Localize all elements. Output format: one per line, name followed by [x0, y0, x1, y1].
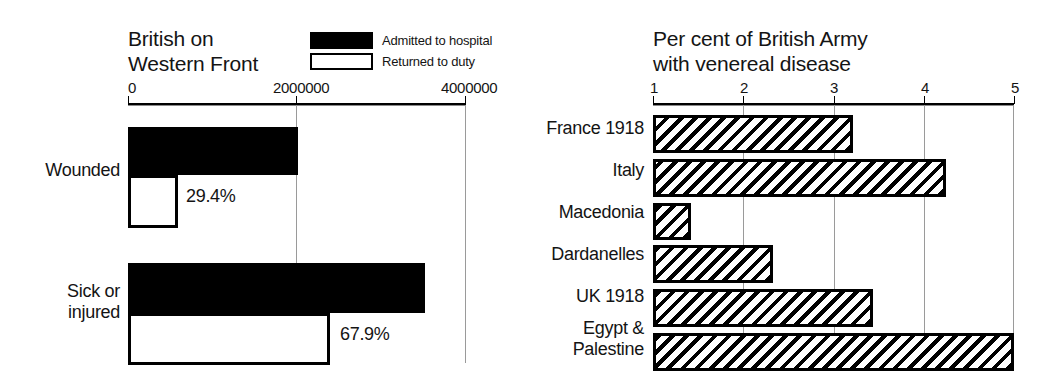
- right-gridline-5: [1013, 105, 1014, 367]
- right-bar-france-1918: [653, 115, 853, 153]
- legend-swatch-hollow-icon: [310, 53, 373, 70]
- left-chart-panel: British on Western Front Admitted to hos…: [0, 0, 520, 387]
- legend-item-admitted: Admitted to hospital: [310, 30, 525, 51]
- left-plot-frame-top: [128, 105, 466, 106]
- legend: Admitted to hospital Returned to duty: [310, 30, 525, 72]
- right-bar-uk-1918: [653, 289, 873, 327]
- figure-root: British on Western Front Admitted to hos…: [0, 0, 1040, 387]
- left-annotation-wounded-pct: 29.4%: [186, 187, 236, 205]
- right-gridline-4: [924, 105, 925, 367]
- right-bar-dardanelles: [653, 245, 773, 283]
- right-axis-tick-3: [834, 96, 835, 104]
- legend-label-admitted: Admitted to hospital: [382, 34, 492, 48]
- left-bar-sick-admitted: [128, 263, 425, 313]
- left-xtick-label-0: 0: [128, 80, 136, 95]
- left-annotation-sick-pct: 67.9%: [340, 325, 390, 343]
- right-axis-tick-1: [653, 96, 654, 104]
- legend-swatch-filled-icon: [310, 32, 373, 49]
- right-bar-egypt-palestine: [653, 333, 1014, 371]
- left-category-label-sick: Sick or injured: [10, 281, 120, 323]
- left-plot-area: [128, 105, 466, 363]
- right-bar-italy: [653, 159, 946, 197]
- left-bar-wounded-admitted: [128, 127, 298, 175]
- legend-label-returned: Returned to duty: [382, 55, 475, 69]
- left-axis-tick-1: [296, 96, 297, 104]
- right-xtick-label-2: 2: [740, 80, 748, 95]
- left-category-label-wounded: Wounded: [10, 160, 120, 181]
- left-axis-tick-2: [465, 96, 466, 104]
- left-axis-tick-0: [128, 96, 129, 104]
- right-chart-title: Per cent of British Army with venereal d…: [653, 26, 868, 76]
- left-chart-title: British on Western Front: [128, 26, 258, 76]
- right-chart-panel: Per cent of British Army with venereal d…: [520, 0, 1040, 387]
- left-bar-sick-returned: [128, 313, 330, 365]
- right-axis-tick-2: [743, 96, 744, 104]
- right-axis-tick-4: [924, 96, 925, 104]
- right-xtick-label-5: 5: [1011, 80, 1019, 95]
- left-xtick-label-1: 2000000: [273, 80, 329, 95]
- right-category-label-dardanelles: Dardanelles: [520, 244, 644, 265]
- right-axis-tick-5: [1014, 96, 1015, 104]
- right-xtick-label-4: 4: [921, 80, 929, 95]
- right-category-label-italy: Italy: [520, 160, 644, 181]
- left-bar-wounded-returned: [128, 175, 178, 228]
- legend-item-returned: Returned to duty: [310, 51, 525, 72]
- right-xtick-label-1: 1: [650, 80, 658, 95]
- right-category-label-macedonia: Macedonia: [520, 202, 644, 223]
- right-category-label-uk: UK 1918: [520, 286, 644, 307]
- right-plot-area: [653, 105, 1014, 367]
- right-category-label-france: France 1918: [520, 118, 644, 139]
- right-bar-macedonia: [653, 203, 691, 240]
- right-category-label-egypt: Egypt & Palestine: [520, 318, 644, 360]
- left-gridline-4000000: [465, 105, 466, 363]
- left-xtick-label-2: 4000000: [441, 80, 497, 95]
- right-xtick-label-3: 3: [830, 80, 838, 95]
